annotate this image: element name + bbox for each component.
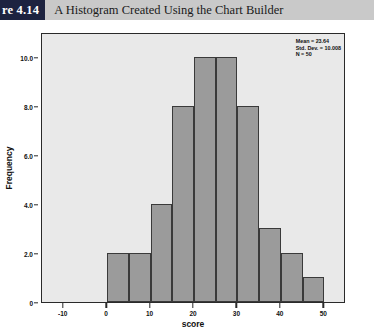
x-tick-label: 40 [276, 310, 283, 317]
stat-mean: Mean = 23.64 [296, 38, 341, 45]
histogram-bar [194, 57, 216, 302]
histogram-chart: Frequency 02.04.06.08.010.0 Mean = 23.64… [0, 23, 374, 332]
x-tick-mark [323, 303, 324, 308]
y-tick-label: 6.0 [24, 152, 33, 159]
y-axis: 02.04.06.08.010.0 [0, 33, 38, 303]
histogram-bar [259, 228, 281, 302]
figure-caption-text: A Histogram Created Using the Chart Buil… [45, 3, 283, 18]
y-tick-mark [34, 204, 38, 205]
x-tick-label: -10 [58, 310, 67, 317]
x-tick-mark [279, 303, 280, 308]
y-tick-mark [34, 302, 38, 303]
histogram-bar [281, 253, 303, 302]
histogram-bar [303, 277, 325, 302]
stat-n: N = 50 [296, 51, 341, 58]
y-tick-label: 4.0 [24, 201, 33, 208]
figure-header: re 4.14 A Histogram Created Using the Ch… [0, 0, 374, 20]
y-tick-mark [34, 57, 38, 58]
histogram-bar [172, 106, 194, 302]
plot-area: Mean = 23.64 Std. Dev. = 10.008 N = 50 [41, 33, 345, 303]
histogram-bar [237, 106, 259, 302]
x-tick-label: 0 [104, 310, 108, 317]
x-tick-mark [236, 303, 237, 308]
y-tick-label: 0 [29, 300, 33, 307]
figure-number-tab: re 4.14 [0, 0, 45, 20]
x-tick-mark [105, 303, 106, 308]
histogram-bar [107, 253, 129, 302]
histogram-bar [216, 57, 238, 302]
x-tick-label: 50 [320, 310, 327, 317]
y-tick-label: 2.0 [24, 250, 33, 257]
y-tick-label: 10.0 [20, 54, 33, 61]
stat-stddev: Std. Dev. = 10.008 [296, 45, 341, 52]
x-tick-mark [149, 303, 150, 308]
histogram-bar [151, 204, 173, 302]
x-tick-mark [62, 303, 63, 308]
x-tick-mark [192, 303, 193, 308]
x-tick-label: 30 [233, 310, 240, 317]
y-tick-mark [34, 106, 38, 107]
statistics-annotation: Mean = 23.64 Std. Dev. = 10.008 N = 50 [296, 38, 341, 58]
y-tick-label: 8.0 [24, 103, 33, 110]
y-tick-mark [34, 253, 38, 254]
x-tick-label: 20 [189, 310, 196, 317]
x-axis-title: score [41, 319, 345, 329]
x-tick-label: 10 [146, 310, 153, 317]
histogram-bar [129, 253, 151, 302]
y-tick-mark [34, 155, 38, 156]
